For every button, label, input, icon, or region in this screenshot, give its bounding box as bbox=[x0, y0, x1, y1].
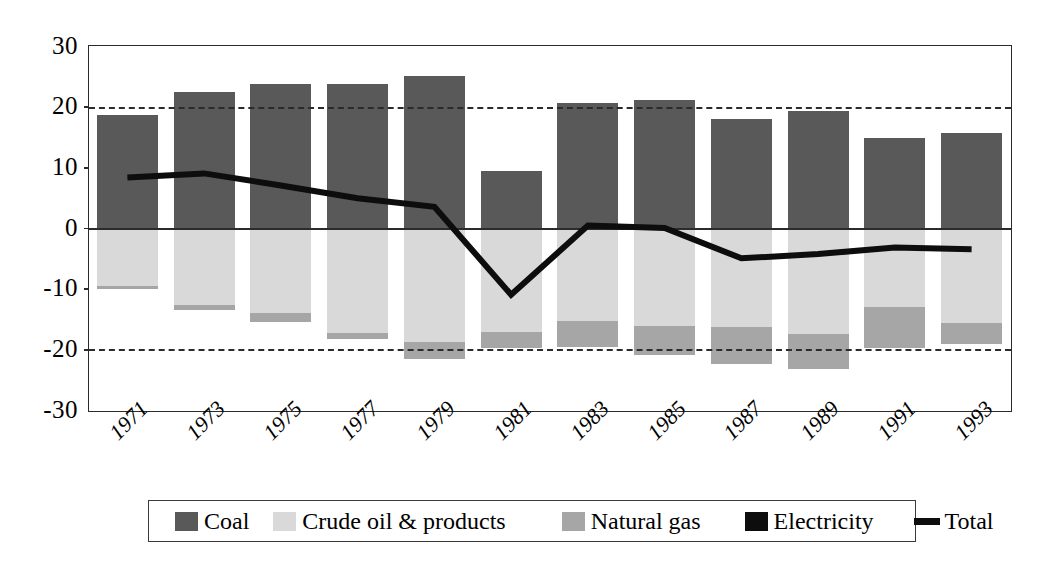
legend-item-label: Crude oil & products bbox=[302, 509, 505, 533]
y-axis-tick-label: 0 bbox=[8, 215, 78, 240]
legend-item-label: Electricity bbox=[774, 509, 874, 533]
chart-root: 3020100-10-20-30 19711973197519771979198… bbox=[0, 0, 1064, 579]
legend-item-total[interactable]: Total bbox=[914, 509, 994, 533]
y-axis-tick-label: -30 bbox=[8, 397, 78, 422]
line-total-icon bbox=[914, 518, 940, 525]
legend-item-coal[interactable]: Coal bbox=[175, 509, 249, 533]
y-axis-tick-label: 30 bbox=[8, 33, 78, 58]
swatch-elec-icon bbox=[745, 512, 768, 531]
chart-legend: CoalCrude oil & productsNatural gasElect… bbox=[148, 500, 916, 542]
legend-item-label: Natural gas bbox=[591, 509, 701, 533]
swatch-coal-icon bbox=[175, 512, 198, 531]
y-axis-tick-label: -10 bbox=[8, 275, 78, 300]
legend-item-label: Coal bbox=[204, 509, 249, 533]
legend-item-crude-oil-products[interactable]: Crude oil & products bbox=[273, 509, 505, 533]
legend-item-natural-gas[interactable]: Natural gas bbox=[562, 509, 701, 533]
y-axis-tick-label: 20 bbox=[8, 93, 78, 118]
y-axis-tick-label: 10 bbox=[8, 154, 78, 179]
swatch-gas-icon bbox=[562, 512, 585, 531]
y-axis-tick-label: -20 bbox=[8, 336, 78, 361]
total-line-path bbox=[127, 173, 971, 294]
legend-item-electricity[interactable]: Electricity bbox=[745, 509, 874, 533]
plot-inner bbox=[89, 46, 1011, 411]
plot-area bbox=[88, 45, 1012, 412]
total-line-series bbox=[89, 46, 1010, 410]
legend-item-label: Total bbox=[945, 509, 994, 533]
swatch-oil-icon bbox=[273, 512, 296, 531]
